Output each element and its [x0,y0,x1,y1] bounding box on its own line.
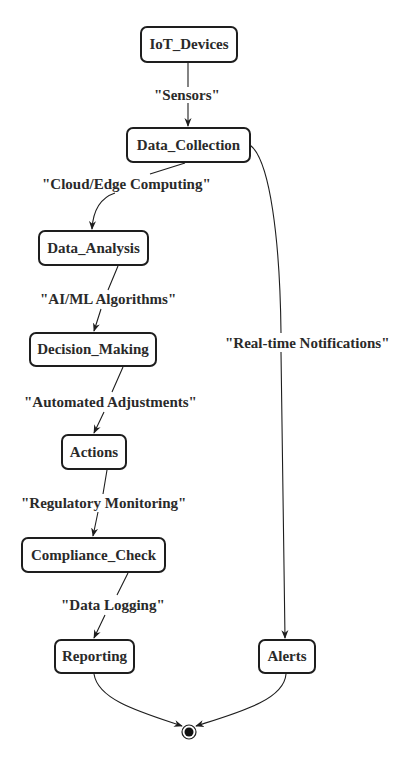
edge-reporting-to-end [94,674,182,726]
state-data-analysis[interactable]: Data_Analysis [38,230,149,266]
edge-alerts-to-end [196,674,286,726]
edge-real-time-notifications [250,145,285,638]
edge-cloud-edge-computing [92,163,185,229]
state-data-collection[interactable]: Data_Collection [126,127,251,163]
state-label: Data_Analysis [47,240,140,257]
state-reporting[interactable]: Reporting [54,639,135,674]
state-iot-devices[interactable]: IoT_Devices [140,26,238,63]
edge-label-data-logging: "Data Logging" [61,597,165,613]
state-alerts[interactable]: Alerts [258,639,316,674]
final-state-icon [182,725,196,739]
state-label: Alerts [267,648,306,665]
edge-label-regulatory-monitoring: "Regulatory Monitoring" [21,495,186,511]
state-label: Reporting [62,648,127,665]
state-actions[interactable]: Actions [61,434,127,470]
edge-label-cloud-edge-computing: "Cloud/Edge Computing" [42,176,211,192]
state-compliance-check[interactable]: Compliance_Check [21,537,166,573]
state-label: Actions [70,444,118,461]
state-label: Compliance_Check [31,547,156,564]
state-label: Data_Collection [137,137,240,154]
state-decision-making[interactable]: Decision_Making [29,332,157,367]
edge-label-real-time-notifications: "Real-time Notifications" [225,335,390,351]
edge-label-sensors: "Sensors" [154,87,220,103]
edge-label-automated-adjustments: "Automated Adjustments" [24,394,197,410]
state-label: IoT_Devices [149,36,228,53]
edge-label-ai-ml-algorithms: "AI/ML Algorithms" [40,291,176,307]
state-label: Decision_Making [37,341,149,358]
